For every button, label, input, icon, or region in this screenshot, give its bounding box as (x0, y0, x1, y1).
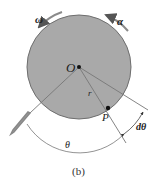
center-point (77, 65, 81, 69)
figure-caption: (b) (72, 165, 85, 178)
radius-label: r (88, 88, 92, 98)
point-p (106, 106, 110, 110)
rotating-disk-diagram: ω α O r P θ dθ (b) (0, 0, 162, 182)
theta-label: θ (65, 139, 70, 150)
alpha-label: α (117, 15, 124, 27)
theta-arc (27, 124, 124, 153)
center-label: O (66, 60, 76, 75)
point-label: P (101, 111, 109, 123)
omega-label: ω (35, 13, 43, 25)
dtheta-label: dθ (136, 121, 147, 132)
handle (11, 112, 30, 134)
